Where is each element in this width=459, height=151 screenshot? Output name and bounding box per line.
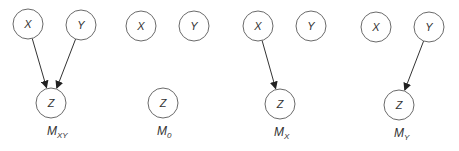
edge-y-to-z-my — [405, 41, 424, 90]
node-y-m0: Y — [179, 11, 209, 41]
model-label-mx: MX — [274, 125, 290, 141]
node-label: Z — [276, 98, 285, 110]
causal-models-diagram: XYZXYZXYZXYZ MXYM0MXMY — [0, 0, 459, 151]
model-label-my: MY — [394, 126, 410, 142]
node-label: Y — [307, 20, 315, 32]
node-label: X — [136, 20, 145, 32]
node-label: X — [371, 21, 380, 33]
node-label: Z — [159, 97, 168, 109]
edges-layer — [32, 38, 423, 90]
node-z-mx: Z — [265, 89, 295, 119]
nodes-layer: XYZXYZXYZXYZ — [13, 9, 444, 120]
edge-x-to-z-mxy — [32, 38, 46, 87]
node-x-mx: X — [243, 11, 273, 41]
node-y-my: Y — [414, 12, 444, 42]
node-y-mx: Y — [296, 11, 326, 41]
node-label: X — [253, 20, 262, 32]
node-label: X — [23, 18, 32, 30]
edge-y-to-z-mxy — [57, 39, 76, 88]
node-label: Y — [190, 20, 198, 32]
node-x-mxy: X — [13, 9, 43, 39]
node-label: Z — [47, 97, 56, 109]
node-label: Y — [77, 19, 85, 31]
node-label: Z — [395, 99, 404, 111]
model-label-m0: M0 — [157, 124, 172, 140]
node-label: Y — [425, 21, 433, 33]
node-z-m0: Z — [148, 88, 178, 118]
edge-x-to-z-mx — [262, 40, 276, 88]
node-x-m0: X — [126, 11, 156, 41]
labels-layer: MXYM0MXMY — [47, 124, 410, 142]
node-z-mxy: Z — [36, 88, 66, 118]
node-y-mxy: Y — [66, 10, 96, 40]
node-z-my: Z — [384, 90, 414, 120]
model-label-mxy: MXY — [47, 124, 68, 140]
node-x-my: X — [361, 12, 391, 42]
